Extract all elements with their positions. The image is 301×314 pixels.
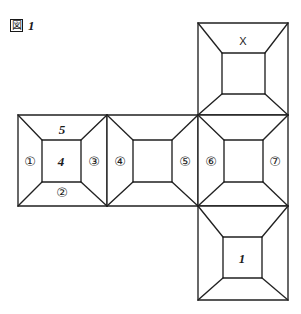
panel-strip-left <box>18 115 107 206</box>
figure-root: 図 1 <box>0 0 301 314</box>
panel-top <box>198 23 288 115</box>
panel-strip-right <box>198 115 288 206</box>
panel-strip-middle <box>107 115 198 206</box>
cube-net-diagram <box>0 0 301 314</box>
panel-bottom <box>198 206 288 300</box>
